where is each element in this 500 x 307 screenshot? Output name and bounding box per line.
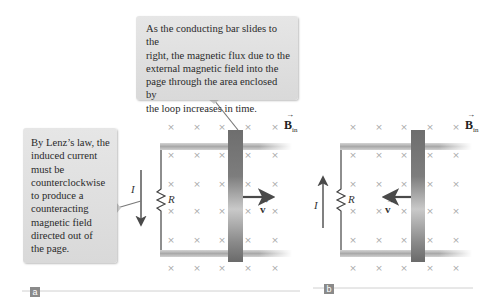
svg-text:×: ×	[244, 179, 252, 189]
svg-text:×: ×	[271, 179, 279, 189]
svg-text:×: ×	[271, 235, 279, 245]
velocity-label-a: →v	[260, 203, 266, 215]
svg-text:×: ×	[375, 122, 383, 132]
svg-text:×: ×	[271, 263, 279, 273]
svg-text:×: ×	[349, 122, 357, 132]
svg-text:×: ×	[426, 235, 434, 245]
panel-a: ××××× ××××× ××××× ××××× ××××× ×××××	[141, 122, 292, 273]
svg-text:×: ×	[375, 235, 383, 245]
svg-text:×: ×	[452, 150, 460, 160]
callout-lenz-text: By Lenz’s law, the induced current must …	[31, 136, 113, 256]
svg-text:×: ×	[193, 179, 201, 189]
panel-tag-a: a	[30, 287, 40, 297]
svg-text:×: ×	[167, 206, 175, 216]
svg-text:×: ×	[193, 122, 201, 132]
svg-text:×: ×	[375, 179, 383, 189]
svg-text:×: ×	[400, 150, 408, 160]
resistor-label-b: R	[348, 193, 355, 205]
svg-text:×: ×	[218, 179, 226, 189]
svg-text:×: ×	[375, 263, 383, 273]
svg-text:×: ×	[452, 206, 460, 216]
svg-text:×: ×	[167, 235, 175, 245]
field-label-b: →Bin	[465, 118, 478, 134]
svg-text:×: ×	[218, 206, 226, 216]
callout-flux-increase: As the conducting bar slides to the righ…	[136, 16, 298, 100]
panel-tag-b: b	[324, 284, 334, 294]
callout-lenz-law: By Lenz’s law, the induced current must …	[23, 128, 117, 263]
svg-text:×: ×	[349, 235, 357, 245]
svg-text:×: ×	[400, 235, 408, 245]
svg-text:×: ×	[218, 235, 226, 245]
svg-text:×: ×	[400, 206, 408, 216]
svg-text:×: ×	[244, 263, 252, 273]
resistor-wire	[157, 150, 165, 250]
svg-text:×: ×	[244, 122, 252, 132]
svg-text:×: ×	[375, 150, 383, 160]
svg-text:×: ×	[167, 179, 175, 189]
svg-text:×: ×	[218, 263, 226, 273]
field-label-a: →Bin	[284, 118, 297, 134]
current-label-b: I	[314, 199, 318, 211]
svg-text:×: ×	[375, 206, 383, 216]
svg-text:×: ×	[271, 150, 279, 160]
svg-text:×: ×	[271, 122, 279, 132]
conducting-bar	[228, 130, 243, 262]
svg-text:×: ×	[244, 150, 252, 160]
svg-text:×: ×	[349, 206, 357, 216]
svg-text:×: ×	[426, 179, 434, 189]
callout-flux-text: As the conducting bar slides to the righ…	[146, 22, 290, 115]
conducting-bar	[411, 130, 425, 262]
svg-text:×: ×	[244, 206, 252, 216]
svg-text:×: ×	[167, 150, 175, 160]
svg-text:×: ×	[218, 122, 226, 132]
svg-text:×: ×	[452, 235, 460, 245]
svg-text:×: ×	[452, 263, 460, 273]
svg-text:×: ×	[400, 179, 408, 189]
left-callout-pointer	[117, 201, 141, 208]
svg-text:×: ×	[167, 263, 175, 273]
current-label-a: I	[131, 183, 135, 195]
resistor-wire	[337, 150, 345, 250]
svg-text:×: ×	[167, 122, 175, 132]
svg-text:×: ×	[452, 122, 460, 132]
svg-text:×: ×	[193, 206, 201, 216]
svg-text:×: ×	[349, 263, 357, 273]
svg-text:×: ×	[193, 235, 201, 245]
svg-text:×: ×	[452, 179, 460, 189]
panel-b: ××××× ××××× ××××× ××××× ××××× ×××××	[323, 122, 472, 273]
svg-text:×: ×	[218, 150, 226, 160]
svg-text:×: ×	[244, 235, 252, 245]
svg-text:×: ×	[426, 206, 434, 216]
svg-text:×: ×	[349, 179, 357, 189]
svg-text:×: ×	[193, 150, 201, 160]
svg-text:×: ×	[193, 263, 201, 273]
svg-text:×: ×	[349, 150, 357, 160]
svg-text:×: ×	[400, 263, 408, 273]
svg-text:×: ×	[400, 122, 408, 132]
svg-text:×: ×	[271, 206, 279, 216]
svg-text:×: ×	[426, 122, 434, 132]
resistor-label-a: R	[168, 193, 175, 205]
svg-text:×: ×	[426, 263, 434, 273]
svg-text:×: ×	[426, 150, 434, 160]
velocity-label-b: →v	[385, 203, 391, 215]
